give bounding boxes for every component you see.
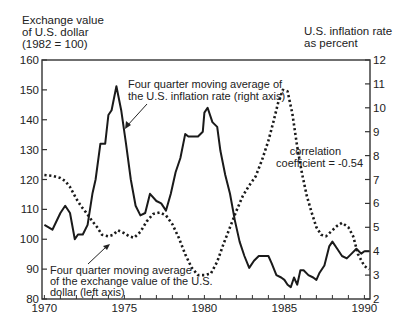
- right-axis-title-line: as percent: [304, 37, 359, 49]
- right-tick-label: 6: [373, 197, 379, 209]
- right-tick-label: 3: [373, 269, 379, 281]
- left-tick-label: 140: [20, 114, 39, 126]
- dollar-annotation: Four quarter moving average of the excha…: [50, 244, 213, 298]
- right-axis-title-line: U.S. inflation rate: [304, 25, 392, 37]
- right-tick-label: 12: [373, 54, 386, 66]
- x-tick-label: 1980: [192, 302, 218, 314]
- correlation-annotation-line: correlation: [290, 145, 341, 157]
- x-tick-label: 1990: [352, 302, 378, 314]
- left-tick-label: 100: [20, 233, 39, 245]
- inflation-annotation-line: Four quarter moving average of: [128, 78, 283, 90]
- x-tick-label: 1985: [272, 302, 298, 314]
- left-tick-label: 90: [26, 263, 39, 275]
- left-axis-title-line: of U.S. dollar: [22, 26, 89, 38]
- left-tick-label: 110: [21, 203, 39, 215]
- right-tick-label: 9: [373, 126, 379, 138]
- left-axis-ticks: 1601501401301201101009080: [20, 54, 47, 305]
- correlation-annotation: correlation coefficient = -0.54: [276, 145, 363, 169]
- x-tick-label: 1970: [32, 302, 58, 314]
- right-tick-label: 11: [373, 78, 385, 90]
- series-lines: [44, 86, 369, 287]
- left-axis-title-line: (1982 = 100): [22, 38, 88, 50]
- right-tick-label: 5: [373, 221, 379, 233]
- left-tick-label: 120: [20, 174, 39, 186]
- right-axis-title: U.S. inflation rate as percent: [304, 25, 392, 49]
- right-tick-label: 4: [373, 245, 380, 257]
- right-tick-label: 8: [373, 150, 379, 162]
- x-tick-label: 1975: [112, 302, 138, 314]
- left-axis-title: Exchange value of U.S. dollar (1982 = 10…: [22, 14, 104, 50]
- left-tick-label: 150: [20, 84, 39, 96]
- left-tick-label: 130: [20, 144, 39, 156]
- right-tick-label: 10: [373, 102, 386, 114]
- inflation-annotation: Four quarter moving average of the U.S. …: [125, 78, 285, 129]
- dollar-arrow-icon: [88, 247, 106, 264]
- correlation-annotation-line: coefficient = -0.54: [276, 157, 363, 169]
- right-axis-ticks: 12111098765432: [365, 54, 386, 305]
- inflation-annotation-line: the U.S. inflation rate (right axis): [128, 90, 285, 102]
- inflation-arrow-icon: [127, 104, 147, 126]
- left-tick-label: 160: [20, 54, 39, 66]
- chart: Exchange value of U.S. dollar (1982 = 10…: [0, 0, 405, 330]
- inflation-rate-line: [44, 86, 369, 287]
- dollar-annotation-line: dollar (left axis): [50, 286, 125, 298]
- dollar-exchange-line: [44, 90, 369, 275]
- right-tick-label: 7: [373, 174, 379, 186]
- left-axis-title-line: Exchange value: [22, 14, 104, 26]
